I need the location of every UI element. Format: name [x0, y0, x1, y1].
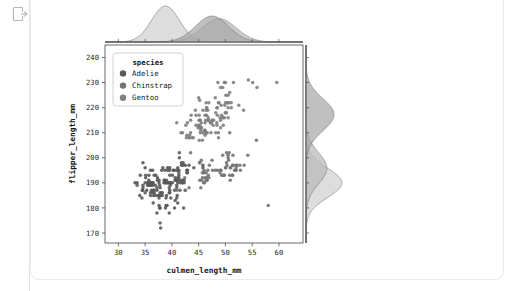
data-point [197, 138, 201, 142]
x-tick-label: 35 [141, 248, 150, 257]
data-point [275, 81, 279, 85]
data-point [147, 174, 151, 178]
data-point [176, 201, 180, 205]
x-tick-label: 45 [194, 248, 203, 257]
data-point [201, 108, 205, 112]
data-point [246, 154, 250, 158]
data-point [216, 113, 220, 117]
data-point [219, 118, 223, 122]
data-point [217, 136, 221, 140]
data-point [184, 189, 188, 193]
data-point [141, 161, 145, 165]
y-axis-title: flipper_length_mm [68, 104, 77, 184]
data-point [155, 189, 159, 193]
data-point [231, 154, 235, 158]
data-point [159, 226, 163, 230]
data-point [208, 164, 212, 168]
data-point [213, 96, 217, 100]
data-point [242, 108, 246, 112]
data-point [179, 181, 183, 185]
data-point [222, 123, 226, 127]
data-point [228, 179, 232, 183]
x-tick-label: 30 [114, 248, 123, 257]
jointplot-figure: 30354045505560170180190200210220230240cu… [45, 2, 375, 286]
data-point [157, 196, 161, 200]
data-point [235, 164, 239, 168]
data-point [151, 201, 155, 205]
data-point [141, 186, 145, 190]
data-point [181, 164, 185, 168]
data-point [173, 206, 177, 210]
data-point [210, 159, 214, 163]
x-tick-label: 50 [221, 248, 230, 257]
legend-label-chinstrap: Chinstrap [132, 81, 172, 90]
data-point [223, 103, 227, 107]
data-point [179, 131, 183, 135]
y-tick-label: 210 [86, 128, 99, 137]
data-point [239, 169, 243, 173]
data-point [226, 106, 230, 110]
data-point [217, 101, 221, 105]
right-marginal-kde [306, 45, 342, 243]
screenshot-root: 30354045505560170180190200210220230240cu… [0, 0, 519, 291]
y-tick-label: 230 [86, 78, 99, 87]
export-icon[interactable] [12, 6, 29, 22]
data-point [247, 78, 251, 82]
data-point [209, 131, 213, 135]
data-point [178, 151, 182, 155]
data-point [199, 186, 203, 190]
data-point [165, 179, 169, 183]
data-point [160, 169, 164, 173]
data-point [177, 171, 181, 175]
data-point [207, 101, 211, 105]
data-point [230, 106, 234, 110]
data-point [255, 86, 258, 90]
data-point [168, 191, 172, 195]
legend-title: species [132, 58, 163, 67]
data-point [176, 176, 180, 180]
data-point [154, 174, 158, 178]
data-point [232, 81, 236, 85]
x-tick-label: 40 [168, 248, 177, 257]
y-tick-label: 170 [86, 229, 99, 238]
data-point [198, 98, 202, 102]
data-point [186, 171, 190, 175]
data-point [143, 191, 147, 195]
data-point [189, 113, 193, 117]
data-point [196, 126, 200, 129]
data-point [203, 113, 207, 117]
legend-marker-adelie [120, 70, 126, 76]
data-point [207, 118, 211, 122]
data-point [168, 174, 172, 178]
data-point [226, 116, 230, 120]
data-point [201, 176, 205, 180]
data-point [175, 189, 179, 193]
data-point [215, 121, 219, 125]
y-tick-label: 220 [86, 103, 99, 112]
data-point [199, 131, 203, 135]
data-point [197, 113, 201, 117]
y-tick-label: 180 [86, 204, 99, 213]
data-point [224, 111, 228, 115]
data-point [149, 169, 153, 173]
data-point [167, 211, 171, 215]
data-point [225, 151, 229, 155]
data-point [178, 189, 182, 193]
data-point [200, 159, 204, 163]
data-point [230, 101, 234, 105]
data-point [183, 176, 187, 180]
data-point [216, 81, 220, 85]
y-tick-label: 240 [86, 53, 99, 62]
data-point [144, 176, 148, 180]
data-point [225, 161, 229, 165]
data-point [156, 179, 160, 183]
data-point [168, 169, 172, 173]
data-point [194, 113, 198, 117]
data-point [165, 194, 169, 198]
y-tick-label: 190 [86, 178, 99, 187]
data-point [169, 196, 173, 200]
data-point [226, 101, 230, 105]
data-point [155, 211, 159, 215]
data-point [214, 131, 218, 135]
data-point [149, 194, 153, 198]
